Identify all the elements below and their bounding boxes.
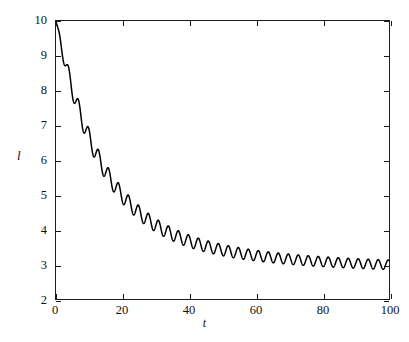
y-tick-mark-right (384, 56, 389, 57)
x-tick-mark-top (123, 21, 124, 26)
x-tick-mark-top (391, 21, 392, 26)
y-tick-mark (56, 56, 61, 57)
y-tick-mark (56, 126, 61, 127)
y-tick-label: 5 (0, 188, 47, 202)
x-tick-label: 20 (102, 303, 142, 317)
x-tick-label: 80 (303, 303, 343, 317)
y-tick-label: 8 (0, 83, 47, 97)
y-tick-mark-right (384, 266, 389, 267)
x-tick-mark (56, 294, 57, 299)
y-tick-mark (56, 196, 61, 197)
plot-area (55, 20, 390, 300)
y-tick-label: 9 (0, 48, 47, 62)
y-tick-label: 4 (0, 223, 47, 237)
x-tick-label: 60 (236, 303, 276, 317)
y-tick-mark-right (384, 161, 389, 162)
y-tick-label: 10 (0, 13, 47, 27)
y-tick-mark-right (384, 21, 389, 22)
x-axis-label: t (0, 316, 409, 331)
x-tick-mark (324, 294, 325, 299)
x-tick-mark (257, 294, 258, 299)
x-tick-mark-top (257, 21, 258, 26)
y-tick-mark-right (384, 301, 389, 302)
y-tick-label: 3 (0, 258, 47, 272)
y-tick-label: 6 (0, 153, 47, 167)
y-tick-mark-right (384, 126, 389, 127)
x-tick-label: 100 (370, 303, 409, 317)
y-tick-mark (56, 301, 61, 302)
y-tick-label: 2 (0, 293, 47, 307)
figure-caption (0, 333, 409, 342)
y-tick-mark (56, 266, 61, 267)
y-tick-mark-right (384, 231, 389, 232)
x-tick-label: 40 (169, 303, 209, 317)
y-tick-mark (56, 161, 61, 162)
y-tick-mark (56, 21, 61, 22)
figure-container: 020406080100 2345678910 t l (0, 0, 409, 342)
y-tick-mark-right (384, 196, 389, 197)
y-tick-mark (56, 231, 61, 232)
x-tick-mark (391, 294, 392, 299)
x-tick-mark (190, 294, 191, 299)
y-tick-label: 7 (0, 118, 47, 132)
curve-svg (56, 21, 389, 299)
data-series-line (56, 21, 389, 269)
y-tick-mark (56, 91, 61, 92)
x-tick-mark (123, 294, 124, 299)
x-tick-mark-top (190, 21, 191, 26)
y-tick-mark-right (384, 91, 389, 92)
x-tick-mark-top (324, 21, 325, 26)
y-axis-label: l (17, 148, 21, 164)
